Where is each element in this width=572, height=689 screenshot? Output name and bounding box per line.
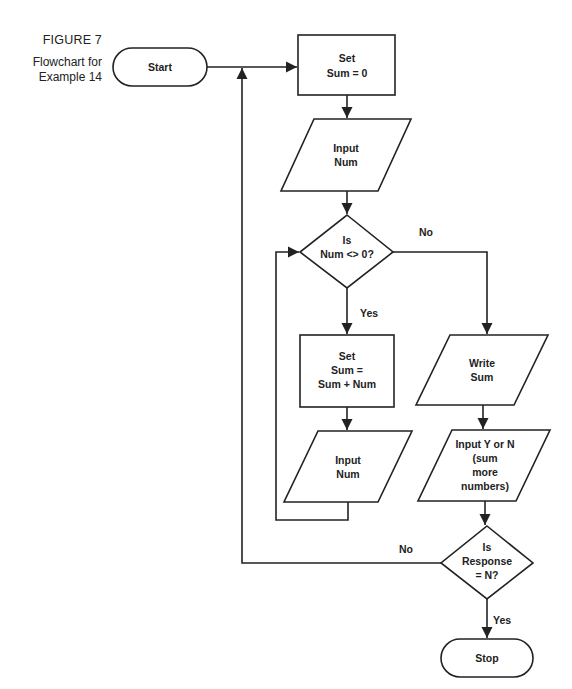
edge-label-num-no: No bbox=[419, 226, 433, 238]
node-decision-num-line1: Is bbox=[343, 234, 352, 246]
flowchart: Start Set Sum = 0 Input Num Is Num <> 0?… bbox=[0, 0, 572, 689]
node-stop: Stop bbox=[441, 639, 533, 677]
node-write-sum: Write Sum bbox=[416, 335, 548, 405]
node-set-sum-zero-line2: Sum = 0 bbox=[327, 67, 368, 79]
node-decision-response-line1: Is bbox=[483, 541, 492, 553]
node-input-num-1-line2: Num bbox=[334, 156, 357, 168]
node-set-sum-zero-line1: Set bbox=[339, 52, 356, 64]
edge-decision-no bbox=[393, 252, 487, 334]
edge-label-num-yes: Yes bbox=[360, 307, 378, 319]
node-decision-response-line2: Response bbox=[462, 555, 512, 567]
node-set-sum-add-line2: Sum = bbox=[331, 364, 363, 376]
node-set-sum-add-line1: Set bbox=[339, 350, 356, 362]
node-input-response-line1: Input Y or N bbox=[455, 438, 514, 450]
node-input-response: Input Y or N (sum more numbers) bbox=[418, 430, 550, 501]
node-decision-response: Is Response = N? bbox=[441, 526, 533, 599]
node-input-num-1: Input Num bbox=[281, 119, 411, 191]
node-start: Start bbox=[113, 48, 207, 86]
node-start-label: Start bbox=[148, 61, 172, 73]
node-decision-response-line3: = N? bbox=[475, 569, 498, 581]
edge-label-response-no: No bbox=[399, 543, 413, 555]
node-input-num-1-line1: Input bbox=[333, 142, 359, 154]
node-set-sum-zero: Set Sum = 0 bbox=[298, 35, 395, 95]
node-input-response-line3: more bbox=[472, 466, 498, 478]
node-set-sum-add: Set Sum = Sum + Num bbox=[300, 335, 394, 407]
node-set-sum-add-line3: Sum + Num bbox=[318, 378, 376, 390]
node-input-response-line2: (sum bbox=[472, 452, 497, 464]
node-input-num-2: Input Num bbox=[284, 431, 412, 502]
node-decision-num-line2: Num <> 0? bbox=[320, 248, 374, 260]
node-stop-label: Stop bbox=[475, 652, 498, 664]
node-input-response-line4: numbers) bbox=[461, 480, 509, 492]
node-write-sum-line2: Sum bbox=[471, 371, 494, 383]
node-write-sum-line1: Write bbox=[469, 357, 495, 369]
edge-label-response-yes: Yes bbox=[493, 614, 511, 626]
node-input-num-2-line2: Num bbox=[336, 468, 359, 480]
node-input-num-2-line1: Input bbox=[335, 454, 361, 466]
node-decision-num: Is Num <> 0? bbox=[300, 215, 393, 288]
